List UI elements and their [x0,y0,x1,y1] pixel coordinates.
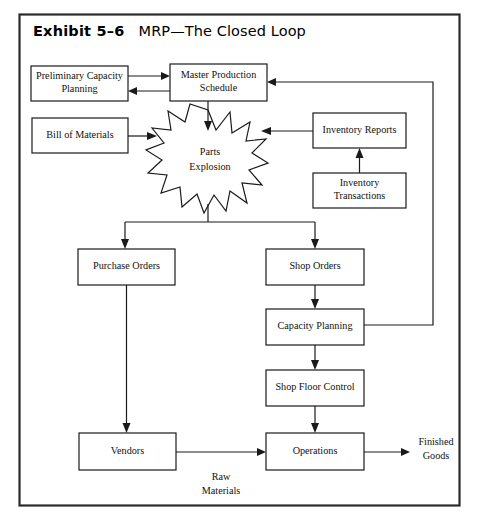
node-capacity-planning[interactable]: Capacity Planning [266,309,364,345]
starburst-icon [146,104,268,213]
node-label-inventory-reports: Inventory Reports [323,124,397,135]
node-label-shop-floor-control: Shop Floor Control [275,381,354,392]
node-operations[interactable]: Operations [266,433,364,470]
node-bill-of-materials[interactable]: Bill of Materials [32,118,128,153]
edge-shop-orders-to-capacity-planning [311,285,319,309]
node-label-capacity-planning: Capacity Planning [278,320,353,331]
label-finished-goods-line1: Finished [418,436,453,447]
edge-purchase-orders-to-vendors [123,285,131,433]
edge-capacity-planning-to-shop-floor-control [311,345,319,370]
node-label-preliminary-capacity-planning-line2: Planning [61,83,97,94]
node-vendors[interactable]: Vendors [79,433,176,470]
node-label-vendors: Vendors [111,445,144,456]
edge-vendors-to-operations [176,448,266,456]
label-finished-goods-line2: Goods [423,450,450,461]
node-preliminary-capacity-planning[interactable]: Preliminary Capacity Planning [31,66,128,101]
node-label-inventory-transactions-line2: Transactions [334,190,386,201]
node-parts-explosion[interactable]: Parts Explosion [146,104,268,213]
node-label-inventory-transactions-line1: Inventory [340,177,381,188]
node-label-master-production-schedule-line1: Master Production [181,69,257,80]
node-inventory-transactions[interactable]: Inventory Transactions [313,173,406,208]
label-raw-materials: Raw Materials [202,471,241,496]
edge-prelim-to-mps [128,72,170,80]
node-shop-orders[interactable]: Shop Orders [266,249,364,285]
node-label-parts-explosion-line1: Parts [200,146,220,157]
node-label-bill-of-materials: Bill of Materials [46,129,113,140]
edge-mps-to-prelim [128,87,170,95]
edge-bom-to-parts-explosion [128,132,157,140]
node-purchase-orders[interactable]: Purchase Orders [78,249,175,285]
edge-shop-floor-control-to-operations [311,406,319,433]
edge-parts-explosion-split [121,204,319,249]
node-inventory-reports[interactable]: Inventory Reports [313,113,406,148]
label-raw-materials-line2: Materials [202,485,241,496]
node-master-production-schedule[interactable]: Master Production Schedule [170,64,267,101]
node-label-parts-explosion-line2: Explosion [189,161,230,172]
edge-operations-to-finished-goods [364,448,410,456]
edge-inventory-transactions-to-inventory-reports [356,148,364,173]
node-label-master-production-schedule-line2: Schedule [200,82,238,93]
edge-inventory-reports-to-parts-explosion [261,127,313,135]
exhibit-page: Exhibit 5–6 MRP—The Closed Loop Prelimin… [0,0,478,520]
label-raw-materials-line1: Raw [212,471,231,482]
node-label-shop-orders: Shop Orders [289,260,340,271]
node-shop-floor-control[interactable]: Shop Floor Control [266,370,364,406]
node-label-operations: Operations [293,445,338,456]
node-label-preliminary-capacity-planning-line1: Preliminary Capacity [36,70,124,81]
node-label-purchase-orders: Purchase Orders [93,260,160,271]
mrp-closed-loop-diagram: Preliminary Capacity Planning Master Pro… [0,0,478,520]
label-finished-goods: Finished Goods [418,436,453,461]
